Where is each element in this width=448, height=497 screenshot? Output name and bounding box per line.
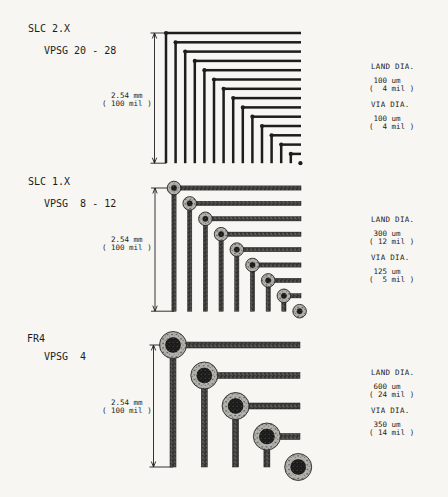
trace-vertical <box>235 250 239 312</box>
trace-horizontal <box>195 60 301 63</box>
via-grid-section-3 <box>150 332 312 481</box>
trace-vertical <box>174 42 177 163</box>
trace-horizontal <box>252 115 301 118</box>
section-3-land-dia-heading: LAND DIA. <box>371 369 414 377</box>
via-hole <box>186 200 193 207</box>
via-hole <box>290 459 307 476</box>
section-2-via-dia-heading: VIA DIA. <box>371 254 410 262</box>
via-dot <box>174 40 178 44</box>
section-2-subtitle: VPSG 8 - 12 <box>44 199 116 209</box>
via-dot <box>202 68 206 72</box>
trace-horizontal <box>253 263 302 267</box>
section-1-via-dia-heading: VIA DIA. <box>371 101 410 109</box>
trace-vertical <box>170 345 176 467</box>
via-dot <box>289 152 293 156</box>
via-dot <box>183 50 187 54</box>
trace-vertical <box>184 52 187 164</box>
trace-vertical <box>270 135 273 163</box>
section-2-land-dia-heading: LAND DIA. <box>371 216 414 224</box>
trace-vertical <box>172 188 176 311</box>
via-dot <box>270 133 274 137</box>
via-hole <box>259 428 276 445</box>
trace-vertical <box>194 61 197 163</box>
via-hole <box>233 246 240 253</box>
via-dot <box>222 87 226 91</box>
trace-horizontal <box>204 373 300 379</box>
via-hole <box>281 292 288 299</box>
section-1-pitch-label: 2.54 mm ( 100 mil ) <box>102 92 152 108</box>
via-dot <box>250 115 254 119</box>
trace-horizontal <box>185 50 301 53</box>
via-hole <box>218 231 225 238</box>
trace-horizontal <box>174 186 301 190</box>
trace-vertical <box>203 70 206 163</box>
via-grid-section-2 <box>151 181 306 318</box>
section-1-land-dia-heading: LAND DIA. <box>371 63 414 71</box>
via-hole <box>171 185 178 192</box>
trace-horizontal <box>262 125 301 128</box>
trace-horizontal <box>205 217 301 221</box>
via-dot <box>279 143 283 147</box>
trace-horizontal <box>204 69 301 72</box>
trace-horizontal <box>237 248 301 252</box>
trace-horizontal <box>272 134 301 137</box>
trace-vertical <box>280 145 283 164</box>
trace-vertical <box>261 126 264 163</box>
trace-horizontal <box>224 88 301 91</box>
section-2-title: SLC 1.X <box>28 177 70 187</box>
via-hole <box>196 367 213 384</box>
via-hole <box>249 262 256 269</box>
section-1-subtitle: VPSG 20 - 28 <box>44 46 116 56</box>
trace-horizontal <box>281 143 301 146</box>
section-1-via-dia-value: 100 um ( 4 mil ) <box>369 115 414 131</box>
via-hole <box>227 398 244 415</box>
section-3-via-dia-value: 350 um ( 14 mil ) <box>369 421 414 437</box>
trace-horizontal <box>233 97 301 100</box>
via-dot <box>241 105 245 109</box>
via-pitch-comparison-figure: SLC 2.X VPSG 20 - 28 2.54 mm ( 100 mil )… <box>0 0 448 497</box>
section-3-via-dia-heading: VIA DIA. <box>371 407 410 415</box>
pitch-dimension-2 <box>151 188 174 311</box>
pitch-dimension-3 <box>150 345 174 467</box>
section-3-subtitle: VPSG 4 <box>44 352 86 362</box>
trace-vertical <box>203 219 207 311</box>
section-3-pitch-label: 2.54 mm ( 100 mil ) <box>102 399 152 415</box>
trace-horizontal <box>221 232 301 236</box>
pitch-dimension-1 <box>151 33 167 163</box>
section-2-pitch-label: 2.54 mm ( 100 mil ) <box>102 236 152 252</box>
via-dot <box>298 161 302 165</box>
via-dot <box>231 96 235 100</box>
trace-vertical <box>219 234 223 311</box>
via-dot <box>164 31 168 35</box>
trace-vertical <box>222 89 225 163</box>
trace-vertical <box>232 98 235 163</box>
section-1-land-dia-value: 100 um ( 4 mil ) <box>369 77 414 93</box>
trace-vertical <box>165 33 168 163</box>
via-dot <box>212 77 216 81</box>
via-dot <box>260 124 264 128</box>
via-dot <box>193 59 197 63</box>
section-3-land-dia-value: 600 um ( 24 mil ) <box>369 383 414 399</box>
trace-vertical <box>213 80 216 164</box>
section-3-title: FR4 <box>27 334 45 344</box>
trace-horizontal <box>214 78 301 81</box>
trace-vertical <box>242 107 245 163</box>
trace-vertical <box>251 117 254 164</box>
trace-horizontal <box>173 342 300 348</box>
via-hole <box>265 277 272 284</box>
via-hole <box>202 215 209 222</box>
section-2-via-dia-value: 125 um ( 5 mil ) <box>369 268 414 284</box>
trace-horizontal <box>166 32 301 35</box>
via-hole <box>165 337 182 354</box>
trace-horizontal <box>176 41 301 44</box>
section-1-title: SLC 2.X <box>28 24 70 34</box>
trace-vertical <box>188 203 192 311</box>
via-grid-section-1 <box>151 31 303 165</box>
section-2-land-dia-value: 300 um ( 12 mil ) <box>369 230 414 246</box>
trace-horizontal <box>243 106 301 109</box>
via-hole <box>296 308 303 315</box>
trace-horizontal <box>190 201 301 205</box>
